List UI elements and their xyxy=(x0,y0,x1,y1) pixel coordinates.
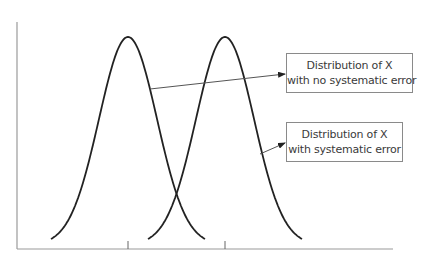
label-no-systematic-error: Distribution of X with no systematic err… xyxy=(286,53,413,93)
arrow-to-no-error-label xyxy=(150,74,285,89)
label-line-1: Distribution of X xyxy=(287,58,412,73)
label-line-2: with no systematic error xyxy=(287,73,412,88)
label-line-1: Distribution of X xyxy=(287,127,402,142)
label-line-2: with systematic error xyxy=(287,142,402,157)
arrow-to-error-label xyxy=(260,143,285,154)
curve-systematic-error xyxy=(148,37,302,239)
label-systematic-error: Distribution of X with systematic error xyxy=(286,122,403,162)
curve-no-systematic-error xyxy=(51,37,205,239)
